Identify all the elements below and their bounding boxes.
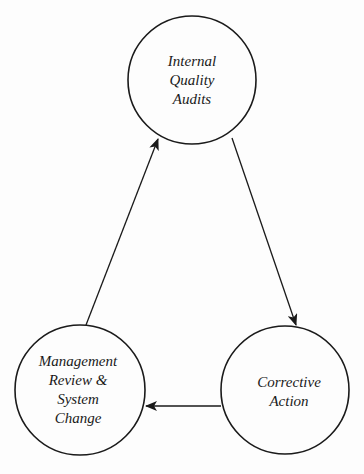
node-label-corrective: Corrective Action: [257, 373, 321, 411]
node-label-line: Review &: [39, 371, 117, 390]
node-label-line: System: [39, 390, 117, 409]
node-label-line: Quality: [168, 71, 216, 90]
node-label-line: Internal: [168, 52, 216, 71]
arrow-review-to-audits: [86, 139, 158, 325]
node-label-line: Corrective: [257, 373, 321, 392]
quality-cycle-diagram: Internal Quality Audits Corrective Actio…: [0, 0, 364, 474]
node-label-audits: Internal Quality Audits: [168, 52, 216, 109]
node-label-line: Management: [39, 352, 117, 371]
node-label-line: Change: [39, 409, 117, 428]
arrow-audits-to-corrective: [232, 138, 296, 325]
node-label-review: Management Review & System Change: [39, 352, 117, 428]
node-label-line: Audits: [168, 90, 216, 109]
node-label-line: Action: [257, 392, 321, 411]
